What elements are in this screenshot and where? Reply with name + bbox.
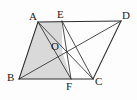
vertex-label-c: C (95, 75, 102, 87)
geometry-figure: A E D B F C O (0, 0, 137, 100)
segment-dc (93, 21, 121, 79)
vertex-label-d: D (122, 9, 130, 21)
vertex-label-o: O (51, 40, 59, 52)
segment-ad (38, 21, 121, 22)
vertex-label-a: A (29, 10, 37, 22)
vertex-label-f: F (66, 80, 72, 92)
geometry-canvas: A E D B F C O (0, 0, 137, 100)
vertex-label-e: E (57, 8, 64, 20)
vertex-label-b: B (7, 71, 14, 83)
